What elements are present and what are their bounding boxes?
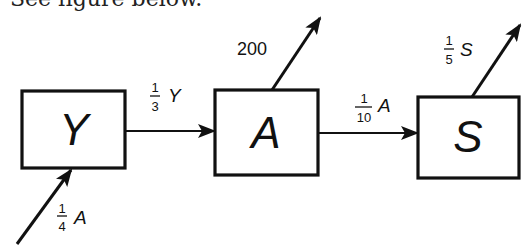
- frac-den: 10: [357, 110, 371, 125]
- arrow-icon: [472, 25, 520, 97]
- frac-den: 3: [151, 99, 158, 114]
- edge-a-to-external: 200: [237, 18, 320, 90]
- edge-y-to-a: 1 3 Y: [125, 80, 214, 131]
- frac-den: 5: [445, 52, 452, 67]
- edge-var: S: [460, 39, 473, 60]
- node-s-label: S: [453, 112, 482, 161]
- edge-external-to-y: 1 4 A: [17, 170, 87, 244]
- frac-num: 1: [151, 80, 158, 95]
- frac-den: 4: [58, 219, 65, 234]
- edge-var: A: [377, 95, 391, 116]
- edge-value: 200: [237, 39, 267, 59]
- edge-var: Y: [168, 85, 182, 106]
- edge-var: A: [73, 207, 87, 228]
- node-a-label: A: [248, 108, 280, 157]
- node-s: S: [418, 97, 519, 178]
- node-y-label: Y: [59, 105, 91, 154]
- frac-num: 1: [445, 33, 452, 48]
- edge-a-to-s: 1 10 A: [318, 91, 417, 133]
- frac-num: 1: [360, 91, 367, 106]
- frac-num: 1: [58, 201, 65, 216]
- flow-diagram: 1 4 A Y 1 3 Y A 200 1 10 A S: [0, 0, 525, 251]
- node-a: A: [215, 90, 318, 175]
- node-y: Y: [22, 91, 125, 168]
- edge-s-to-external: 1 5 S: [444, 25, 520, 97]
- arrow-icon: [272, 18, 320, 90]
